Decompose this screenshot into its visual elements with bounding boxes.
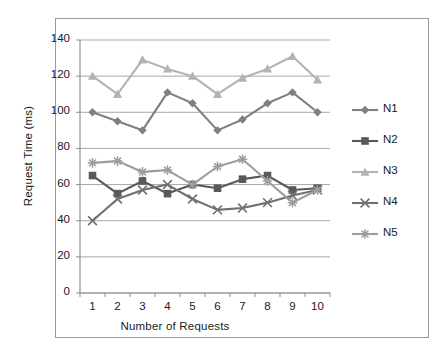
x-tick-label-7: 7 xyxy=(233,300,253,312)
legend-marker-N2 xyxy=(361,137,369,145)
x-tick-label-6: 6 xyxy=(208,300,228,312)
axis-lines xyxy=(76,40,330,297)
y-tick-label-0: 0 xyxy=(36,285,70,297)
marker-N5-6 xyxy=(213,162,223,172)
legend-label-N3: N3 xyxy=(383,164,398,176)
chart-figure: Request Time (ms) Number of Requests 020… xyxy=(0,0,442,356)
legend-marker-N5 xyxy=(360,229,370,239)
series-N5 xyxy=(88,154,323,207)
series-line-N1 xyxy=(93,92,318,130)
y-tick-label-80: 80 xyxy=(36,140,70,152)
x-tick-label-5: 5 xyxy=(183,300,203,312)
x-tick-label-3: 3 xyxy=(133,300,153,312)
x-tick-label-4: 4 xyxy=(158,300,178,312)
marker-N4-5 xyxy=(188,195,197,204)
marker-N1-1 xyxy=(88,108,96,116)
marker-N5-5 xyxy=(188,180,198,190)
marker-N5-7 xyxy=(238,154,248,164)
series-line-N3 xyxy=(93,56,318,94)
marker-N5-4 xyxy=(163,165,173,175)
x-tick-label-9: 9 xyxy=(283,300,303,312)
marker-N5-3 xyxy=(138,167,148,177)
marker-N2-4 xyxy=(164,190,172,198)
marker-N2-3 xyxy=(139,177,147,185)
series-N3 xyxy=(88,52,322,98)
x-tick-label-2: 2 xyxy=(108,300,128,312)
legend-label-N5: N5 xyxy=(383,226,398,238)
marker-N2-1 xyxy=(89,172,97,180)
marker-N2-6 xyxy=(214,184,222,192)
x-tick-label-10: 10 xyxy=(308,300,328,312)
marker-N5-10 xyxy=(313,185,323,195)
legend-marker-N1 xyxy=(361,106,369,114)
y-tick-label-20: 20 xyxy=(36,249,70,261)
marker-N3-9 xyxy=(288,52,297,60)
marker-N5-8 xyxy=(263,176,273,186)
legend-label-N2: N2 xyxy=(383,133,398,145)
legend-label-N4: N4 xyxy=(383,195,398,207)
y-axis-title: Request Time (ms) xyxy=(22,56,34,256)
legend-markers xyxy=(352,106,378,239)
series-layer xyxy=(88,52,323,225)
series-N1 xyxy=(88,88,321,134)
y-tick-label-120: 120 xyxy=(36,68,70,80)
marker-N1-2 xyxy=(113,117,121,125)
y-tick-label-140: 140 xyxy=(36,32,70,44)
gridlines xyxy=(80,40,330,293)
y-tick-label-40: 40 xyxy=(36,213,70,225)
marker-N5-1 xyxy=(88,158,98,168)
y-tick-label-60: 60 xyxy=(36,177,70,189)
marker-N5-2 xyxy=(113,156,123,166)
marker-N2-7 xyxy=(239,175,247,183)
x-tick-label-1: 1 xyxy=(83,300,103,312)
marker-N3-3 xyxy=(138,55,147,63)
y-tick-label-100: 100 xyxy=(36,104,70,116)
x-axis-title: Number of Requests xyxy=(60,320,290,332)
legend-label-N1: N1 xyxy=(383,102,398,114)
x-tick-label-8: 8 xyxy=(258,300,278,312)
marker-N5-9 xyxy=(288,198,298,208)
